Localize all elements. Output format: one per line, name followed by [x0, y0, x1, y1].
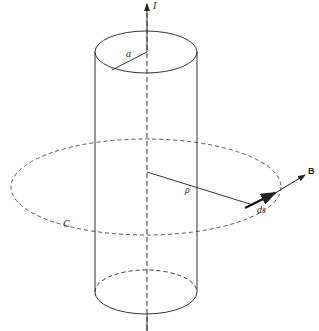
- b-vector: [272, 175, 305, 195]
- label-contour: C: [63, 218, 70, 229]
- label-radius: a: [126, 48, 131, 59]
- label-field: B: [308, 166, 315, 176]
- label-current: I: [153, 0, 156, 11]
- label-ds: ds: [257, 204, 266, 215]
- diagram-canvas: [0, 0, 319, 331]
- cylinder: [95, 31, 197, 314]
- amperian-loop: [11, 139, 281, 235]
- rho-line: [147, 172, 253, 205]
- ampere-law-diagram: I a ρ ds B C: [0, 0, 319, 331]
- label-distance: ρ: [185, 184, 190, 195]
